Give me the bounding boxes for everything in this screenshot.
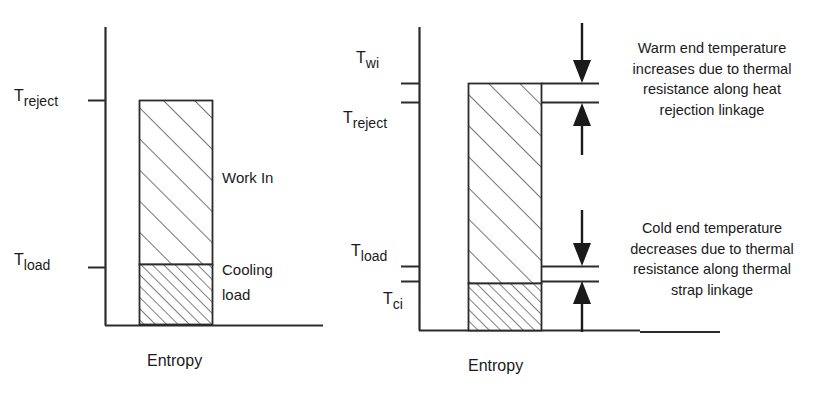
- axis-label-tci-real: Tci: [383, 291, 403, 311]
- x-axis-title-real: Entropy: [468, 358, 523, 374]
- region-label-cooling-ideal-line2: load: [222, 287, 250, 302]
- temperature-entropy-figure: Treject Tload Work In Cooling load Entro…: [0, 0, 823, 395]
- chart-ideal: [88, 27, 323, 326]
- cooling-load-region-ideal: [140, 265, 213, 325]
- axis-label-tload-ideal: Tload: [14, 252, 50, 272]
- work-in-region-ideal: [140, 101, 213, 265]
- x-axis-title-ideal: Entropy: [147, 353, 202, 369]
- arrow-cold-down-icon: [573, 210, 591, 266]
- axis-label-treject-ideal: Treject: [14, 88, 58, 108]
- arrow-warm-down-icon: [573, 23, 591, 83]
- cooling-load-region-real: [469, 284, 542, 331]
- region-label-cooling-ideal: Cooling: [222, 262, 273, 277]
- arrow-warm-up-icon: [573, 103, 591, 155]
- region-label-work-in-ideal: Work In: [222, 170, 273, 185]
- arrow-cold-up-icon: [573, 281, 591, 332]
- annotation-warm-end: Warm end temperature increases due to th…: [607, 38, 817, 120]
- axis-label-twi-real: Twi: [356, 50, 379, 70]
- axis-label-treject-real: Treject: [343, 110, 387, 130]
- annotation-cold-end: Cold end temperature decreases due to th…: [607, 218, 817, 300]
- work-in-region-real: [469, 84, 542, 284]
- axis-label-tload-real: Tload: [351, 243, 387, 263]
